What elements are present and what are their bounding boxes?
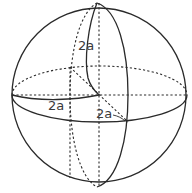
depth-label-leader bbox=[113, 115, 125, 121]
label-vertical-radius: 2a bbox=[78, 38, 94, 53]
label-horizontal-radius: 2a bbox=[48, 98, 64, 113]
label-depth-radius: 2a bbox=[96, 106, 112, 121]
sphere-diagram: 2a 2a 2a bbox=[0, 0, 192, 193]
